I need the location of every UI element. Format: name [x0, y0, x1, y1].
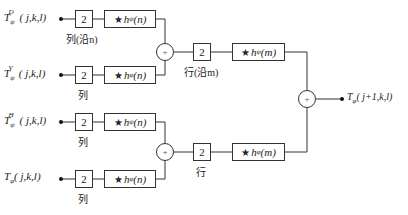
filter-box-scaling-n: ★hφ(n)	[104, 170, 156, 188]
upsample-box-row1: 2	[75, 10, 93, 28]
star-icon: ★	[114, 117, 123, 128]
input-signal-diagonal: TψD( j,k,l)	[4, 10, 46, 26]
sum-junction-upper: +	[156, 43, 174, 61]
column-label: 列	[78, 134, 88, 149]
output-node-dot	[340, 97, 344, 101]
output-signal: Tφ( j+1,k,l)	[347, 91, 392, 105]
connection-wires	[0, 0, 408, 215]
input-node-dot	[59, 17, 63, 21]
upsample-box-upper: 2	[193, 43, 211, 61]
column-label: 列	[78, 87, 88, 102]
star-icon: ★	[114, 174, 123, 185]
input-node-dot	[59, 73, 63, 77]
star-icon: ★	[114, 70, 123, 81]
input-signal-approximation: Tφ( j,k,l)	[4, 170, 41, 185]
filter-box-wavelet-n: ★hψ(n)	[104, 10, 156, 28]
filter-box-wavelet-n: ★hψ(n)	[104, 113, 156, 131]
upsample-box-row3: 2	[75, 113, 93, 131]
sum-junction-lower: +	[156, 143, 174, 161]
input-signal-vertical: TψV( j,k,l)	[4, 66, 45, 82]
input-node-dot	[59, 120, 63, 124]
row-label: 行	[196, 164, 206, 179]
row-label: 行(沿m)	[184, 64, 218, 79]
upsample-box-row2: 2	[75, 66, 93, 84]
upsample-box-lower: 2	[193, 143, 211, 161]
star-icon: ★	[241, 147, 250, 158]
star-icon: ★	[114, 14, 123, 25]
filter-box-scaling-m: ★hφ(m)	[232, 143, 285, 161]
star-icon: ★	[241, 47, 250, 58]
input-node-dot	[59, 177, 63, 181]
input-signal-horizontal: TψH( j,k,l)	[4, 113, 46, 129]
sum-junction-output: +	[298, 90, 316, 108]
column-label: 列	[78, 191, 88, 206]
filter-box-wavelet-m: ★hψ(m)	[232, 43, 285, 61]
filter-box-scaling-n: ★hφ(n)	[104, 66, 156, 84]
column-label: 列(沿n)	[66, 31, 98, 46]
upsample-box-row4: 2	[75, 170, 93, 188]
